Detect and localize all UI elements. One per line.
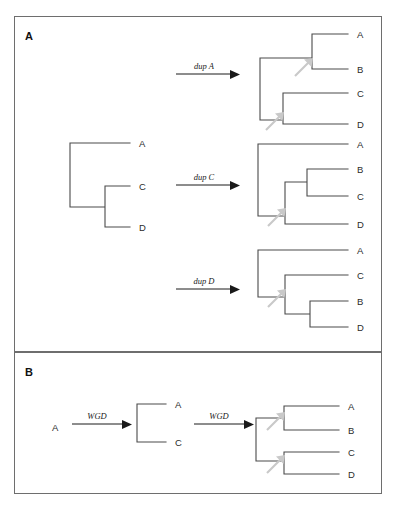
tree-dup-c-branches <box>258 144 348 224</box>
panel-b-start-label: A <box>52 422 59 433</box>
arrow-wgd-1: WGD <box>72 411 132 429</box>
tree-dup-d-leaf-4: D <box>357 322 364 333</box>
arrow-wgd-2-head <box>244 420 254 429</box>
tree-wgd-ac-branches <box>137 404 166 442</box>
arrow-wgd-2: WGD <box>194 411 254 429</box>
tree-dup-a-branches <box>260 34 348 124</box>
tree-dup-c-leaf-4: D <box>357 219 364 230</box>
arrow-dup-d-head <box>230 285 240 294</box>
tree-wgd-ac-leaf-2: C <box>175 437 182 448</box>
panel-b-border <box>15 353 382 494</box>
arrow-dup-d-label: dup D <box>193 276 215 286</box>
tree-wgd-abcd-branches <box>256 406 339 474</box>
arrow-wgd-2-label: WGD <box>209 411 229 421</box>
source-tree-leaf-D: D <box>139 222 146 233</box>
panel-a-label: A <box>25 30 33 42</box>
arrow-dup-c: dup C <box>176 172 240 190</box>
arrow-wgd-1-head <box>122 420 132 429</box>
tree-dup-a-leaf-4: D <box>357 119 364 130</box>
tree-dup-c-leaf-3: C <box>357 191 364 202</box>
tree-dup-d-duplication-marker-1 <box>268 289 286 307</box>
tree-dup-a-duplication-marker-1 <box>295 58 313 76</box>
tree-wgd-abcd: A B C D <box>256 401 355 480</box>
tree-dup-d-leaf-1: A <box>357 245 364 256</box>
source-tree-leaf-A: A <box>139 138 146 149</box>
arrow-dup-a-label: dup A <box>194 61 215 71</box>
arrow-dup-c-label: dup C <box>194 172 215 182</box>
tree-wgd-ac-leaf-1: A <box>175 399 182 410</box>
source-tree-branches <box>70 143 130 227</box>
tree-dup-c-duplication-marker-1 <box>268 208 286 226</box>
tree-wgd-abcd-leaf-1: A <box>348 401 355 412</box>
tree-wgd-abcd-duplication-marker-1 <box>267 412 285 430</box>
tree-dup-d: A C B D <box>258 245 364 333</box>
tree-dup-d-leaf-2: C <box>357 270 364 281</box>
arrow-dup-d: dup D <box>176 276 240 294</box>
tree-wgd-abcd-leaf-3: C <box>348 447 355 458</box>
arrow-dup-a: dup A <box>176 61 240 79</box>
tree-dup-a-leaf-2: B <box>357 64 363 75</box>
source-tree-acd: A C D <box>70 138 146 233</box>
tree-wgd-abcd-leaf-2: B <box>348 425 354 436</box>
tree-dup-d-branches <box>258 250 348 327</box>
tree-wgd-ac: A C <box>137 399 182 448</box>
tree-wgd-abcd-duplication-marker-2 <box>267 455 285 473</box>
tree-wgd-abcd-leaf-4: D <box>348 469 355 480</box>
arrow-dup-a-head <box>230 70 240 79</box>
tree-dup-c-leaf-1: A <box>357 139 364 150</box>
tree-dup-a: A B C D <box>260 29 364 130</box>
tree-dup-a-leaf-1: A <box>357 29 364 40</box>
tree-dup-a-leaf-3: C <box>357 88 364 99</box>
tree-dup-c: A B C D <box>258 139 364 230</box>
arrow-dup-c-head <box>230 181 240 190</box>
tree-dup-c-leaf-2: B <box>357 164 363 175</box>
figure-phylogenetic-duplication-diagram: A A C D dup A A B C D dup C <box>0 0 398 512</box>
tree-dup-a-duplication-marker-2 <box>266 112 284 130</box>
source-tree-leaf-C: C <box>139 181 146 192</box>
arrow-wgd-1-label: WGD <box>87 411 107 421</box>
panel-b-label: B <box>25 366 33 378</box>
tree-dup-d-leaf-3: B <box>357 296 363 307</box>
